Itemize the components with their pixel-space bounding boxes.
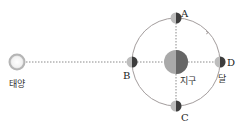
moon-label: 달 — [218, 73, 226, 84]
earth — [164, 50, 188, 74]
label-c: C — [181, 112, 189, 123]
sun-label: 태양 — [9, 79, 25, 89]
label-a: A — [180, 8, 189, 19]
label-b: B — [123, 70, 130, 81]
moon-position-b — [127, 57, 138, 68]
earth-label: 지구 — [180, 76, 196, 86]
moon-position-d — [215, 57, 226, 68]
moon-position-c — [171, 101, 182, 112]
moon-position-a — [171, 13, 182, 24]
sun — [10, 55, 25, 70]
label-d: D — [227, 57, 235, 68]
moon-phase-diagram: A B C D 태양 지구 달 — [0, 0, 239, 128]
